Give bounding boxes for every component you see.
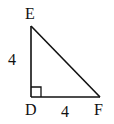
- vertex-label-f: F: [94, 101, 103, 118]
- vertex-label-e: E: [25, 5, 35, 22]
- side-length-ed: 4: [8, 51, 16, 68]
- right-triangle-diagram: E D F 4 4: [0, 0, 114, 124]
- vertex-label-d: D: [25, 101, 37, 118]
- right-angle-marker: [31, 87, 41, 97]
- side-length-df: 4: [61, 103, 69, 120]
